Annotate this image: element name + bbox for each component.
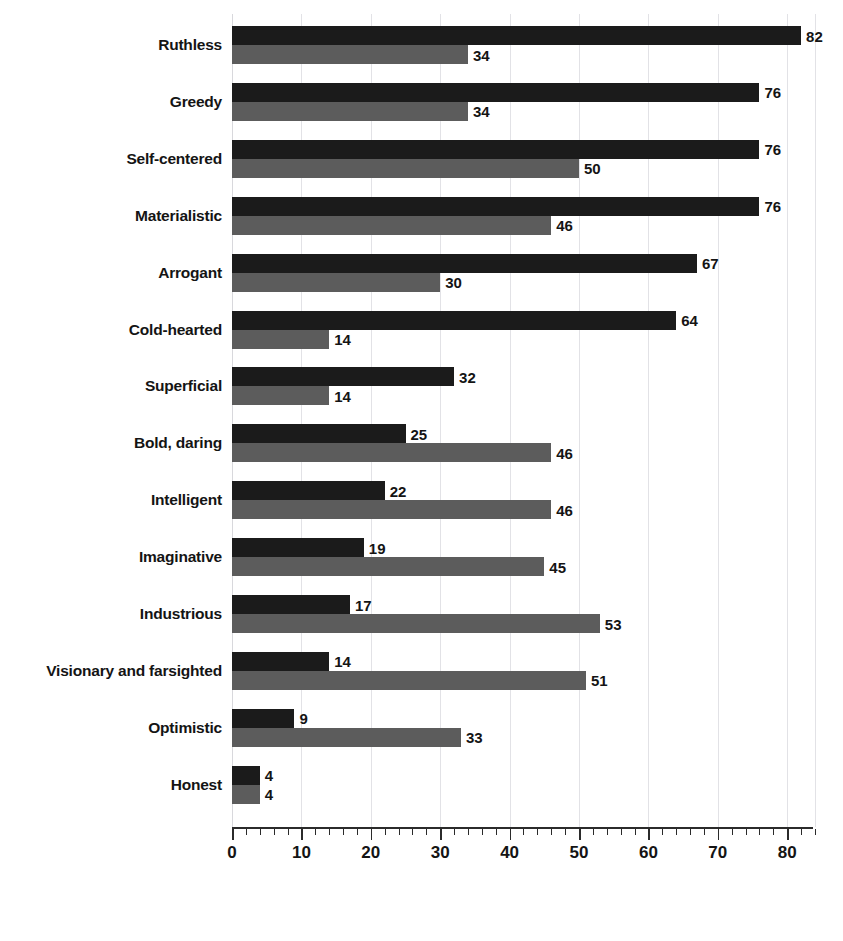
axis-tick-80 [787,829,789,840]
bar-dark [232,83,759,102]
category-label: Greedy [170,94,222,110]
bar-dark [232,709,294,728]
axis-tick-58 [635,829,636,835]
axis-tick-10 [301,829,303,840]
axis-tick-44 [537,829,538,835]
category-label: Industrious [140,606,222,622]
bar-value-label: 4 [265,787,273,802]
bar-value-label: 64 [681,313,698,328]
bar-value-label: 76 [764,199,781,214]
bar-dark [232,481,385,500]
axis-tick-24 [399,829,400,835]
axis-tick-label: 60 [639,844,658,861]
axis-tick-54 [607,829,608,835]
axis-tick-16 [343,829,344,835]
bar-value-label: 14 [334,654,351,669]
axis-tick-4 [260,829,261,835]
bar-value-label: 46 [556,503,573,518]
bar-light [232,728,461,747]
bar-light [232,330,329,349]
axis-tick-64 [676,829,677,835]
axis-tick-74 [746,829,747,835]
bar-dark [232,424,406,443]
axis-tick-72 [732,829,733,835]
bar-value-label: 50 [584,161,601,176]
bar-light [232,557,544,576]
bar-value-label: 30 [445,275,462,290]
axis-tick-78 [773,829,774,835]
bar-light [232,45,468,64]
bar-value-label: 82 [806,29,823,44]
bar-light [232,102,468,121]
x-axis: 01020304050607080 [232,827,813,897]
bar-dark [232,26,801,45]
axis-tick-label: 10 [292,844,311,861]
bar-light [232,216,551,235]
axis-tick-38 [496,829,497,835]
axis-tick-label: 80 [778,844,797,861]
bar-light [232,273,440,292]
bar-light [232,159,579,178]
axis-tick-label: 0 [227,844,236,861]
axis-tick-label: 30 [431,844,450,861]
axis-tick-8 [288,829,289,835]
chart-page: RuthlessGreedySelf-centeredMaterialistic… [0,0,843,941]
axis-tick-label: 50 [570,844,589,861]
axis-tick-6 [274,829,275,835]
category-label: Optimistic [148,720,222,736]
axis-tick-68 [704,829,705,835]
axis-tick-48 [565,829,566,835]
axis-tick-76 [759,829,760,835]
axis-tick-20 [371,829,373,840]
axis-tick-60 [648,829,650,840]
bar-dark [232,595,350,614]
axis-tick-42 [523,829,524,835]
bar-value-label: 53 [605,617,622,632]
bar-dark [232,140,759,159]
bar-value-label: 34 [473,104,490,119]
bar-dark [232,254,697,273]
bar-value-label: 76 [764,85,781,100]
category-label: Materialistic [135,208,222,224]
axis-tick-label: 20 [361,844,380,861]
category-label: Ruthless [158,37,222,53]
category-label: Self-centered [126,151,222,167]
category-label: Superficial [145,378,222,394]
axis-tick-84 [815,829,816,835]
bar-value-label: 14 [334,389,351,404]
bar-value-label: 34 [473,48,490,63]
bar-value-label: 25 [411,427,428,442]
bar-light [232,500,551,519]
category-label: Imaginative [139,549,222,565]
bar-dark [232,197,759,216]
category-label: Honest [171,777,222,793]
bar-value-label: 76 [764,142,781,157]
category-label: Bold, daring [134,435,222,451]
axis-tick-36 [482,829,483,835]
axis-tick-2 [246,829,247,835]
bar-dark [232,652,329,671]
axis-tick-14 [329,829,330,835]
category-label: Arrogant [158,265,222,281]
axis-tick-40 [510,829,512,840]
category-label: Visionary and farsighted [46,663,222,679]
bar-light [232,386,329,405]
axis-tick-22 [385,829,386,835]
bar-value-label: 4 [265,768,273,783]
axis-tick-62 [662,829,663,835]
axis-tick-70 [718,829,720,840]
bar-dark [232,766,260,785]
axis-tick-26 [412,829,413,835]
axis-tick-label: 70 [708,844,727,861]
axis-tick-28 [426,829,427,835]
axis-tick-12 [315,829,316,835]
bar-value-label: 14 [334,332,351,347]
bar-chart: RuthlessGreedySelf-centeredMaterialistic… [0,0,843,941]
bar-dark [232,538,364,557]
axis-tick-56 [621,829,622,835]
bar-dark [232,311,676,330]
axis-tick-50 [579,829,581,840]
bar-value-label: 51 [591,673,608,688]
bar-light [232,443,551,462]
axis-tick-30 [440,829,442,840]
